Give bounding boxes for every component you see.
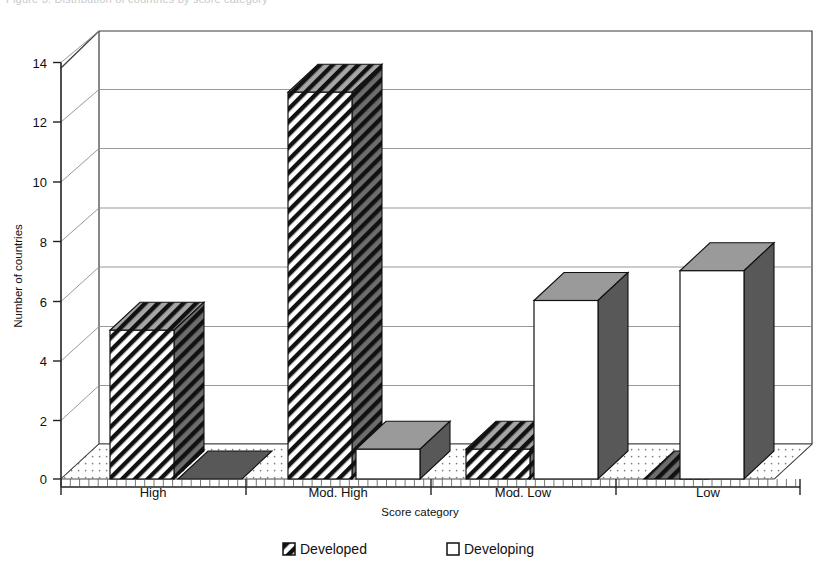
x-tick-label-high: High — [140, 485, 167, 500]
bar-chart-svg: 0 2 4 6 8 10 12 14 Number of countries — [0, 0, 831, 583]
y-tick-label-14: 14 — [33, 56, 47, 71]
x-axis: High Mod. High Mod. Low Low Score catego… — [61, 479, 800, 518]
bar-modlow-developing — [534, 273, 628, 480]
y-tick-label-10: 10 — [33, 175, 47, 190]
chart-root: Figure 3. Distribution of countries by s… — [0, 0, 831, 583]
bar-high-developed — [110, 302, 204, 479]
legend-label-developed: Developed — [300, 541, 367, 557]
x-tick-label-low: Low — [696, 485, 720, 500]
y-tick-label-8: 8 — [40, 235, 47, 250]
y-tick-label-0: 0 — [40, 472, 47, 487]
legend-item-developed[interactable]: Developed — [283, 541, 367, 557]
legend: Developed Developing — [283, 541, 534, 557]
x-axis-minor-ticks — [61, 479, 796, 487]
x-axis-title: Score category — [381, 506, 459, 518]
y-tick-label-6: 6 — [40, 295, 47, 310]
legend-label-developing: Developing — [464, 541, 534, 557]
x-tick-label-mod-high: Mod. High — [308, 485, 367, 500]
x-tick-label-mod-low: Mod. Low — [495, 485, 552, 500]
y-tick-label-4: 4 — [40, 354, 47, 369]
y-tick-label-2: 2 — [40, 414, 47, 429]
legend-swatch-developing — [447, 543, 459, 555]
bar-low-developing — [680, 243, 774, 479]
legend-item-developing[interactable]: Developing — [447, 541, 534, 557]
y-tick-label-12: 12 — [33, 115, 47, 130]
bar-modhigh-developed — [288, 64, 382, 479]
y-axis: 0 2 4 6 8 10 12 14 Number of countries — [12, 56, 61, 488]
legend-swatch-developed — [283, 543, 295, 555]
y-axis-title: Number of countries — [12, 224, 24, 328]
